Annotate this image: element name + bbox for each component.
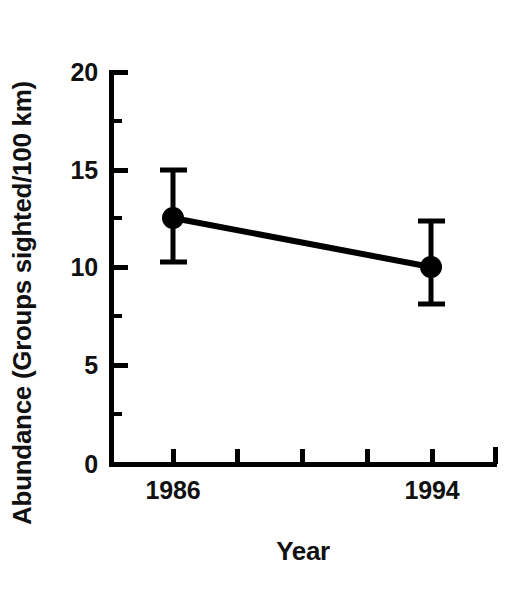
y-major-ticks — [111, 170, 128, 365]
series-line-segment — [173, 218, 431, 267]
data-point-marker-1994 — [420, 256, 442, 278]
data-point-marker-1986 — [162, 207, 184, 229]
plot-area — [0, 0, 521, 606]
figure-container: Abundance (Groups sighted/100 km) Year 2… — [0, 0, 521, 606]
data-series-abundance — [160, 170, 445, 304]
